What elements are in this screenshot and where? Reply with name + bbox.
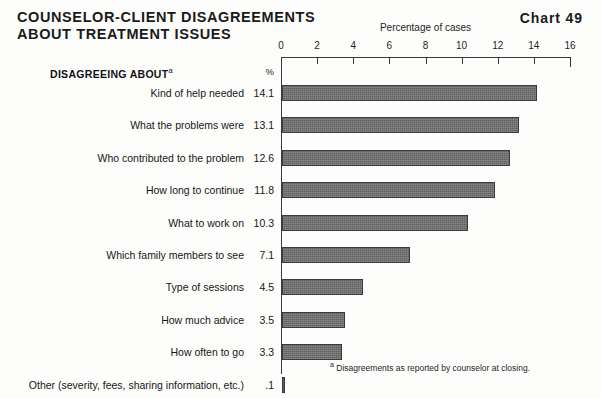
bar-row-value: 3.5 xyxy=(246,311,274,329)
bar-row-label: How much advice xyxy=(8,311,244,329)
bar xyxy=(282,182,495,198)
bar-row-label: Type of sessions xyxy=(8,278,244,296)
bar-row-label: Which family members to see xyxy=(8,246,244,264)
bar-row-label: Other (severity, fees, sharing informati… xyxy=(8,376,244,394)
chart-container: COUNSELOR-CLIENT DISAGREEMENTS ABOUT TRE… xyxy=(0,0,601,398)
bar xyxy=(282,377,285,393)
bar-row-label: What the problems were xyxy=(8,116,244,134)
bar xyxy=(282,312,345,328)
bar-row-value: 12.6 xyxy=(246,149,274,167)
bar-row-value: 3.3 xyxy=(246,343,274,361)
bar-row-value: 11.8 xyxy=(246,181,274,199)
bar-row: How long to continue11.8 xyxy=(0,181,601,199)
bar-row-value: 7.1 xyxy=(246,246,274,264)
bar xyxy=(282,85,537,101)
footnote-text: Disagreements as reported by counselor a… xyxy=(336,363,530,373)
bar xyxy=(282,279,363,295)
bar-row-label: What to work on xyxy=(8,214,244,232)
bar-row: Kind of help needed14.1 xyxy=(0,84,601,102)
bar-row-label: How long to continue xyxy=(8,181,244,199)
bar-row-value: .1 xyxy=(246,376,274,394)
bar-row-label: How often to go xyxy=(8,343,244,361)
bar-row: How much advice3.5 xyxy=(0,311,601,329)
bar-row: Who contributed to the problem12.6 xyxy=(0,149,601,167)
bar-row-value: 13.1 xyxy=(246,116,274,134)
bar-row-value: 10.3 xyxy=(246,214,274,232)
bar-row: What the problems were13.1 xyxy=(0,116,601,134)
bar xyxy=(282,247,410,263)
bar-row-value: 4.5 xyxy=(246,278,274,296)
bar-row-label: Kind of help needed xyxy=(8,84,244,102)
bar-rows: Kind of help needed14.1What the problems… xyxy=(0,0,601,398)
bar-row: Which family members to see7.1 xyxy=(0,246,601,264)
bar xyxy=(282,117,519,133)
footnote-marker: a xyxy=(330,361,334,368)
bar-row: How often to go3.3 xyxy=(0,343,601,361)
bar xyxy=(282,215,468,231)
bar-row: Other (severity, fees, sharing informati… xyxy=(0,376,601,394)
bar-row: What to work on10.3 xyxy=(0,214,601,232)
bar xyxy=(282,344,342,360)
bar-row: Type of sessions4.5 xyxy=(0,278,601,296)
bar-row-label: Who contributed to the problem xyxy=(8,149,244,167)
bar xyxy=(282,150,510,166)
bar-row-value: 14.1 xyxy=(246,84,274,102)
footnote: a Disagreements as reported by counselor… xyxy=(330,361,530,373)
